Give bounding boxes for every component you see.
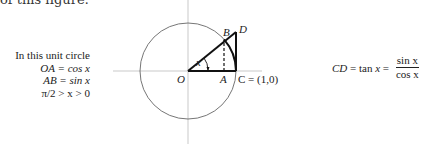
formula-lhs: CD	[332, 62, 347, 74]
formula-fraction: sin x cos x	[396, 55, 419, 80]
point-a-label: A	[219, 73, 227, 85]
angle-label: x	[195, 56, 201, 68]
formula-eq1: = tan	[347, 62, 375, 74]
fraction-numerator: sin x	[396, 55, 419, 68]
point-o-label: O	[177, 73, 185, 85]
formula-eq2: =	[380, 62, 392, 74]
point-c-label: C = (1,0)	[238, 73, 278, 86]
arc-bc	[224, 39, 236, 71]
point-d-label: D	[238, 23, 247, 35]
tangent-formula: CD = tan x = sin x cos x	[332, 55, 419, 80]
point-b-label: B	[223, 26, 230, 38]
fraction-denominator: cos x	[396, 68, 419, 80]
